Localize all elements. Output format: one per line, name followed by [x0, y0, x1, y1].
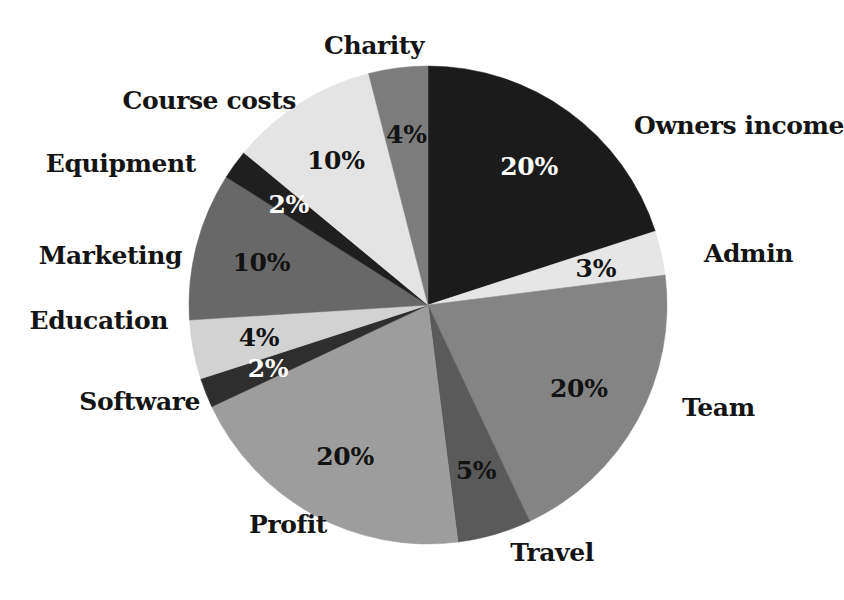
pie-slice-value-equipment: 2% — [269, 190, 310, 219]
pie-wedge-group — [189, 66, 667, 544]
pie-slice-value-admin: 3% — [576, 254, 617, 283]
pie-category-label-charity: Charity — [324, 33, 424, 58]
pie-slice-value-profit: 20% — [316, 442, 374, 471]
pie-slice-value-team: 20% — [550, 374, 608, 403]
pie-category-label-course-costs: Course costs — [123, 88, 296, 113]
pie-slice-value-education: 4% — [239, 323, 280, 352]
pie-slice-value-marketing: 10% — [232, 248, 290, 277]
pie-category-label-travel: Travel — [510, 540, 594, 565]
pie-category-label-education: Education — [30, 308, 168, 333]
pie-category-label-admin: Admin — [704, 241, 793, 266]
pie-slice-value-owners-income: 20% — [500, 152, 558, 181]
pie-category-label-profit: Profit — [249, 512, 327, 537]
pie-slice-value-charity: 4% — [386, 120, 427, 149]
pie-slice-value-course-costs: 10% — [307, 146, 365, 175]
pie-category-label-software: Software — [79, 389, 200, 414]
pie-category-label-owners-income: Owners income — [634, 113, 844, 138]
pie-category-label-team: Team — [682, 395, 755, 420]
pie-slice-value-software: 2% — [248, 354, 289, 383]
pie-category-label-marketing: Marketing — [39, 243, 182, 268]
pie-category-label-equipment: Equipment — [46, 151, 196, 176]
pie-slice-value-travel: 5% — [456, 456, 497, 485]
